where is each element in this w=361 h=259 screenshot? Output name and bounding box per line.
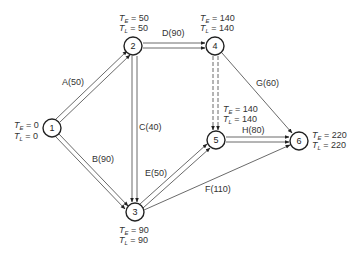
node-3-tl: TL = 90 — [119, 235, 148, 246]
node-6: 6 — [290, 132, 308, 150]
node-6-tl: TL = 220 — [312, 140, 346, 151]
activity-g-label: G(60) — [256, 78, 279, 88]
node-1-times: TE = 0 TL = 0 — [14, 120, 39, 142]
activity-d-label: D(90) — [162, 28, 185, 38]
node-1-te: TE = 0 — [14, 120, 39, 131]
node-6-number: 6 — [296, 136, 301, 146]
node-4: 4 — [206, 37, 224, 55]
node-1: 1 — [43, 119, 61, 137]
node-5-times: TE = 140 TL = 140 — [223, 104, 258, 125]
node-5-number: 5 — [213, 135, 218, 145]
activity-e-label: E(50) — [145, 168, 167, 178]
node-2: 2 — [124, 37, 142, 55]
activity-f-label: F(110) — [205, 184, 231, 194]
activity-a-label: A(50) — [62, 77, 84, 87]
activity-b-label: B(90) — [92, 154, 114, 164]
activity-h-arrow — [226, 137, 289, 142]
activity-h-label: H(80) — [242, 125, 265, 135]
node-2-tl: TL = 50 — [119, 23, 148, 34]
dummy-activity-arrow — [213, 56, 218, 130]
activity-c-arrow — [132, 56, 137, 202]
node-6-times: TE = 220 TL = 220 — [312, 130, 347, 151]
node-3-number: 3 — [132, 207, 137, 217]
node-3: 3 — [126, 203, 144, 221]
node-4-times: TE = 140 TL = 140 — [200, 13, 235, 34]
node-5-tl: TL = 140 — [223, 114, 257, 125]
node-4-number: 4 — [212, 41, 217, 51]
network-diagram: A(50) B(90) C(40) D(90) E(50) F(110) G(6… — [0, 0, 361, 259]
activity-b-arrow — [56, 134, 128, 209]
node-4-tl: TL = 140 — [200, 23, 234, 34]
activity-c-label: C(40) — [139, 122, 162, 132]
node-5: 5 — [207, 131, 225, 149]
node-3-times: TE = 90 TL = 90 — [119, 225, 149, 246]
node-2-number: 2 — [130, 41, 135, 51]
node-2-times: TE = 50 TL = 50 — [119, 13, 149, 34]
node-1-tl: TL = 0 — [14, 131, 38, 142]
node-1-number: 1 — [49, 123, 54, 133]
activity-d-arrow — [143, 43, 205, 48]
